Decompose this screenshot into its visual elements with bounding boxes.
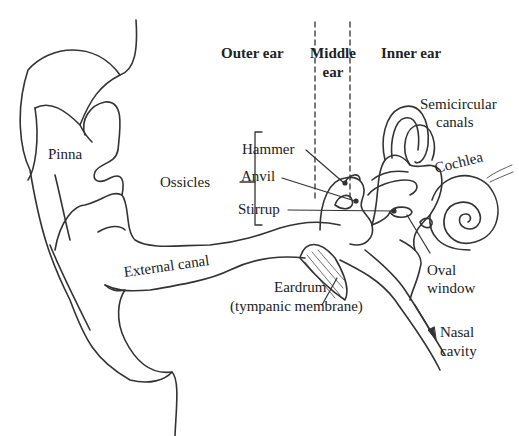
outer-ear-header: Outer ear <box>221 45 284 62</box>
ossicles-label: Ossicles <box>160 174 210 191</box>
eardrum-label-line2: (tympanic membrane) <box>230 298 363 315</box>
semicircular-canal-2 <box>405 125 435 165</box>
oval-window-label-line2: window <box>427 280 475 297</box>
eustachian-tube-upper <box>340 260 440 370</box>
canal-upper-wall <box>55 194 340 250</box>
earlobe <box>105 285 172 372</box>
pinna-label: Pinna <box>48 146 82 163</box>
stirrup-label: Stirrup <box>238 201 280 218</box>
semicircular-canals-label-line1: Semicircular <box>420 96 497 113</box>
nasal-cavity-label-line2: cavity <box>440 343 477 360</box>
inner-ear-header: Inner ear <box>381 45 441 62</box>
oval-window-label-line1: Oval <box>427 262 456 279</box>
ear-anatomy-diagram: Outer ear Middle ear Inner ear Pinna Oss… <box>0 0 519 436</box>
oval-window-leader <box>407 215 430 253</box>
antihelix <box>84 102 123 195</box>
helix-fold <box>35 75 120 125</box>
semicircular-canals-label-line2: canals <box>436 114 473 131</box>
anvil-label: Anvil <box>241 168 275 185</box>
vestibule <box>372 155 442 250</box>
nasal-cavity-label-line1: Nasal <box>440 324 474 341</box>
middle-ear-header-line2: ear <box>306 64 360 81</box>
eardrum-label-line1: Eardrum <box>274 279 326 296</box>
nasal-arrow-icon <box>428 327 436 340</box>
stirrup-leader <box>288 210 394 211</box>
hammer-label: Hammer <box>242 141 294 158</box>
ear-illustration <box>0 0 519 436</box>
pinna-outline <box>20 20 177 436</box>
middle-ear-header-line1: Middle <box>306 45 360 62</box>
hammer-leader <box>306 150 344 183</box>
